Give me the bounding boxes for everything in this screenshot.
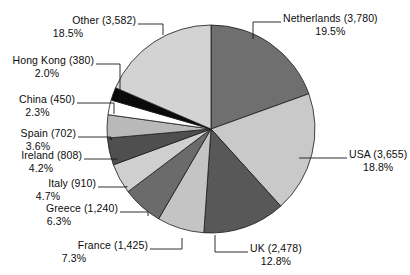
slice-label-other: Other (3,582) 18.5%	[0, 14, 136, 39]
slice-label-hongkong: Hong Kong (380) 2.0%	[0, 54, 94, 79]
slice-label-spain-percent: 3.6%	[0, 140, 76, 153]
slice-label-france-name: France (1,425)	[0, 239, 148, 252]
slice-label-spain-name: Spain (702)	[0, 127, 76, 140]
slice-label-usa-name: USA (3,655)	[349, 148, 407, 161]
slice-label-france-percent: 7.3%	[0, 252, 148, 265]
slice-label-greece: Greece (1,240) 6.3%	[0, 202, 118, 227]
slice-label-france: France (1,425) 7.3%	[0, 239, 148, 264]
slice-label-netherlands-name: Netherlands (3,780)	[283, 12, 378, 25]
leader-line-other	[138, 24, 163, 35]
slice-label-ireland: Ireland (808) 4.2%	[0, 149, 82, 174]
slice-label-uk-name: UK (2,478)	[250, 242, 302, 255]
slice-label-ireland-percent: 4.2%	[0, 162, 82, 175]
slice-label-uk: UK (2,478) 12.8%	[250, 242, 302, 267]
leader-line-spain	[78, 137, 111, 140]
slice-label-other-percent: 18.5%	[0, 27, 136, 40]
slice-label-hongkong-percent: 2.0%	[0, 67, 94, 80]
slice-label-china-percent: 2.3%	[0, 106, 75, 119]
slice-label-italy: Italy (910) 4.7%	[0, 177, 96, 202]
slice-label-greece-percent: 6.3%	[0, 215, 118, 228]
slice-label-netherlands: Netherlands (3,780) 19.5%	[283, 12, 378, 37]
slice-label-china-name: China (450)	[0, 93, 75, 106]
slice-label-uk-percent: 12.8%	[250, 255, 302, 268]
pie-chart: Netherlands (3,780) 19.5% USA (3,655) 18…	[0, 0, 410, 275]
leader-line-uk	[215, 235, 248, 252]
leader-line-greece	[120, 212, 148, 216]
slice-label-italy-name: Italy (910)	[0, 177, 96, 190]
slice-label-spain: Spain (702) 3.6%	[0, 127, 76, 152]
slice-label-usa: USA (3,655) 18.8%	[349, 148, 407, 173]
pie-slice-group	[107, 25, 315, 233]
slice-label-greece-name: Greece (1,240)	[0, 202, 118, 215]
leader-line-italy	[98, 186, 127, 187]
slice-label-netherlands-percent: 19.5%	[283, 25, 378, 38]
slice-label-china: China (450) 2.3%	[0, 93, 75, 118]
slice-label-italy-percent: 4.7%	[0, 190, 96, 203]
slice-label-hongkong-name: Hong Kong (380)	[0, 54, 94, 67]
slice-label-usa-percent: 18.8%	[349, 161, 407, 174]
leader-line-france	[150, 238, 182, 249]
slice-label-other-name: Other (3,582)	[0, 14, 136, 27]
